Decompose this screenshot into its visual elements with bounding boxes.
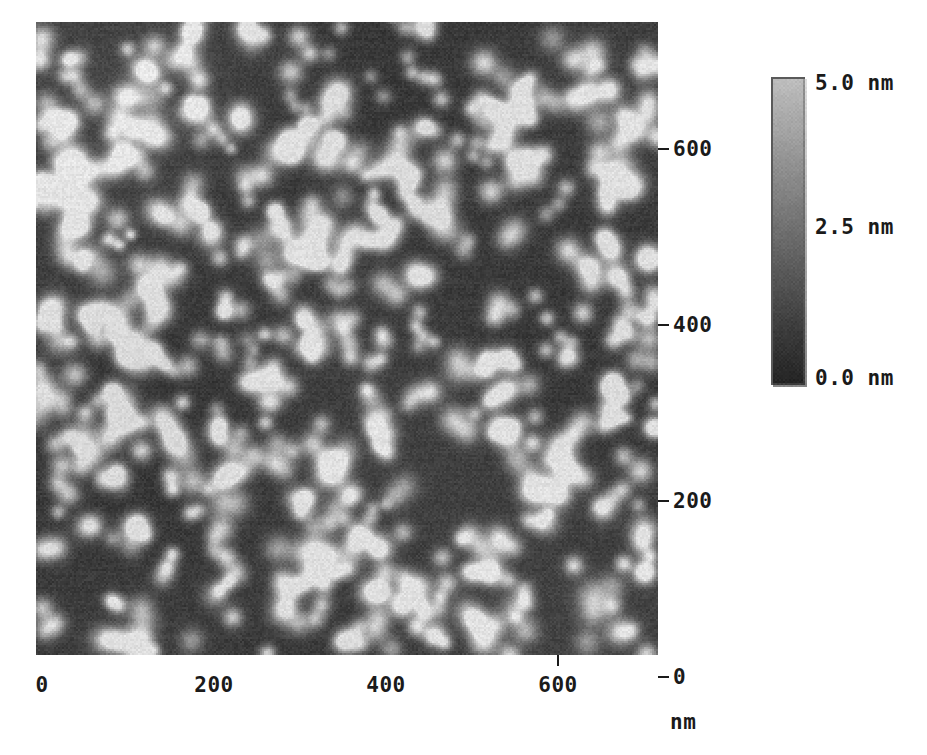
y-tick-mark <box>658 148 669 150</box>
afm-scan-image <box>36 22 658 655</box>
x-axis-unit-label: nm <box>670 712 696 733</box>
colorbar-max-label: 5.0 nm <box>815 73 894 94</box>
y-tick-label: 200 <box>673 491 712 512</box>
y-tick-label: 0 <box>673 667 686 688</box>
x-tick-label: 400 <box>366 675 405 696</box>
x-tick-mark <box>557 655 559 666</box>
colorbar-gradient <box>771 77 805 385</box>
afm-topography-canvas <box>36 22 658 655</box>
y-tick-mark <box>658 500 669 502</box>
y-tick-label: 400 <box>673 315 712 336</box>
y-tick-label: 600 <box>673 139 712 160</box>
colorbar-dither-texture <box>773 79 807 387</box>
y-tick-mark <box>658 676 669 678</box>
colorbar: 5.0 nm 2.5 nm 0.0 nm <box>771 77 927 397</box>
x-tick-label: 0 <box>35 675 48 696</box>
x-tick-label: 200 <box>194 675 233 696</box>
colorbar-mid-label: 2.5 nm <box>815 217 894 238</box>
colorbar-min-label: 0.0 nm <box>815 368 894 389</box>
x-tick-label: 600 <box>538 675 577 696</box>
y-tick-mark <box>658 324 669 326</box>
